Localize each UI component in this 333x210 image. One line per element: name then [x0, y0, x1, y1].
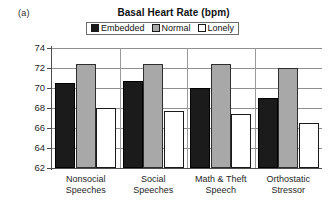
x-axis-tick-label-line: Stressor: [255, 185, 323, 196]
y-axis-tick-label: 62: [23, 163, 45, 173]
chart-plot: 62646668707274 NonsocialSpeechesSocialSp…: [0, 0, 333, 210]
bar-group: [52, 48, 120, 168]
bar-normal-1: [76, 64, 96, 168]
bar-normal-2: [143, 64, 163, 168]
y-axis-tick-label: 64: [23, 143, 45, 153]
bar-embedded-2: [123, 81, 143, 168]
y-axis-tick-label: 72: [23, 63, 45, 73]
y-axis-tick-label: 66: [23, 123, 45, 133]
bar-embedded-1: [55, 83, 75, 168]
bar-embedded-4: [258, 98, 278, 168]
group-separator: [255, 48, 256, 168]
x-axis-tick-label-line: Nonsocial: [52, 174, 120, 185]
x-axis-tick-label-line: Speeches: [120, 185, 188, 196]
x-axis-tick-label-line: Orthostatic: [255, 174, 323, 185]
x-axis-tick-label-line: Math & Theft: [187, 174, 255, 185]
x-axis-tick-label: NonsocialSpeeches: [52, 174, 120, 195]
bar-lonely-4: [299, 123, 319, 168]
x-axis-tick-label: OrthostaticStressor: [255, 174, 323, 195]
y-axis-tick-label: 68: [23, 103, 45, 113]
bar-lonely-1: [96, 108, 116, 168]
y-axis-tick: [47, 168, 52, 169]
bar-group: [187, 48, 255, 168]
bar-lonely-2: [164, 111, 184, 168]
y-axis-tick-label: 70: [23, 83, 45, 93]
bar-group: [255, 48, 323, 168]
x-axis-tick-label-line: Social: [120, 174, 188, 185]
bars-area: [52, 48, 322, 168]
group-separator: [187, 48, 188, 168]
bar-group: [120, 48, 188, 168]
bar-embedded-3: [190, 88, 210, 168]
y-axis-tick-label: 74: [23, 43, 45, 53]
bar-normal-3: [211, 64, 231, 168]
x-axis-tick-label: Math & TheftSpeech: [187, 174, 255, 195]
group-separator: [120, 48, 121, 168]
x-axis-tick-label-line: Speeches: [52, 185, 120, 196]
x-axis-tick-label: SocialSpeeches: [120, 174, 188, 195]
bar-normal-4: [278, 68, 298, 168]
x-axis-tick-label-line: Speech: [187, 185, 255, 196]
x-axis-line: [51, 168, 322, 169]
bar-lonely-3: [231, 114, 251, 168]
